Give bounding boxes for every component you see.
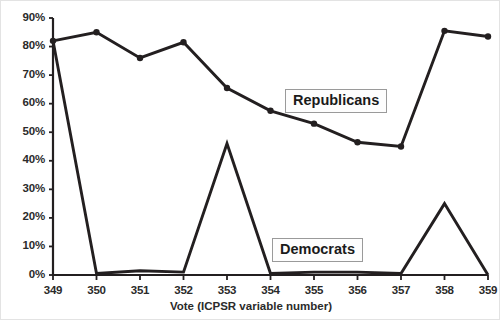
x-tick-label: 359 (468, 284, 500, 296)
data-series-group (53, 31, 488, 275)
x-tick-label: 349 (33, 284, 73, 296)
y-tick-label: 50% (1, 125, 45, 137)
x-tick-label: 353 (207, 284, 247, 296)
series-label-democrats: Democrats (272, 238, 363, 262)
y-tick-label: 80% (1, 39, 45, 51)
x-tick-label: 357 (381, 284, 421, 296)
y-tick-label: 20% (1, 210, 45, 222)
y-tick-label: 40% (1, 153, 45, 165)
y-tick-label: 90% (1, 11, 45, 23)
data-point-markers (50, 28, 491, 150)
x-tick-label: 358 (425, 284, 465, 296)
plot-area (1, 1, 500, 320)
x-tick-label: 351 (120, 284, 160, 296)
x-tick-label: 356 (338, 284, 378, 296)
y-tick-label: 70% (1, 68, 45, 80)
x-tick-label: 354 (251, 284, 291, 296)
series-label-republicans: Republicans (285, 89, 387, 113)
y-tick-label: 0% (1, 268, 45, 280)
x-tick-label: 355 (294, 284, 334, 296)
line-chart: 90%80%70%60%50%40%30%20%10%0% 3493503513… (0, 0, 500, 320)
x-axis-title: Vote (ICPSR variable number) (1, 300, 500, 312)
y-tick-label: 60% (1, 96, 45, 108)
x-tick-label: 350 (77, 284, 117, 296)
y-tick-label: 10% (1, 239, 45, 251)
y-tick-label: 30% (1, 182, 45, 194)
x-tick-label: 352 (164, 284, 204, 296)
